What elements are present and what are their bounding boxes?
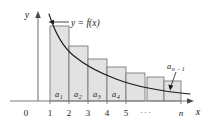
tick-label-ellipsis: ··· [140, 107, 152, 117]
bar-label-a2-base: a [74, 89, 78, 99]
tick-label-n: n [179, 108, 184, 118]
y-axis-label: y [24, 9, 30, 20]
tick-label-3: 3 [86, 108, 91, 118]
bar-label-a2-sub: 2 [79, 94, 82, 100]
tick-label-5: 5 [124, 108, 129, 118]
bar-a1 [50, 26, 69, 101]
bar-label-a4-sub: 4 [117, 94, 120, 100]
bar-label-a1-sub: 1 [60, 94, 63, 100]
bar-label-a1-base: a [55, 89, 59, 99]
curve-label: y = f(x) [70, 18, 100, 29]
x-axis-label: x [195, 106, 201, 117]
bar-label-a3-sub: 3 [97, 94, 101, 100]
tick-label-1: 1 [48, 108, 53, 118]
origin-label: 0 [24, 108, 29, 118]
integral-test-figure: y x 0 1 2 3 4 5 ··· n a1 a2 [0, 0, 207, 132]
tick-label-4: 4 [105, 108, 110, 118]
bar-label-a4-base: a [112, 89, 116, 99]
bar-label-a3-base: a [93, 89, 97, 99]
figure-canvas: y x 0 1 2 3 4 5 ··· n a1 a2 [0, 0, 207, 132]
tick-label-2: 2 [67, 108, 72, 118]
last-bar-label-sub: n − 1 [172, 66, 185, 72]
last-bar-label-base: a [167, 61, 171, 71]
